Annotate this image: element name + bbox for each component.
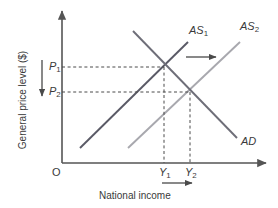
tick-label-p1: P1	[49, 61, 61, 74]
curve-as2-sub: 2	[255, 25, 259, 34]
ad-as-diagram: General price level ($) National income …	[0, 0, 278, 208]
curve-label-ad: AD	[241, 136, 256, 149]
curve-as1-base: AS	[189, 24, 204, 36]
tick-y2-sub: 2	[192, 171, 196, 180]
tick-label-y1: Y1	[159, 167, 171, 180]
curve-as2	[128, 42, 240, 148]
curve-as1-sub: 1	[204, 29, 208, 38]
tick-y1-sub: 1	[166, 171, 170, 180]
tick-p2-sub: 2	[56, 90, 60, 99]
x-axis-label: National income	[99, 191, 171, 201]
tick-p1-sub: 1	[56, 65, 60, 74]
diagram-canvas	[0, 0, 278, 208]
curve-as2-base: AS	[240, 20, 255, 32]
curve-ad-base: AD	[241, 135, 256, 147]
curve-ad	[133, 31, 237, 138]
curve-label-as1: AS1	[189, 25, 208, 38]
curve-as1	[80, 42, 188, 148]
tick-label-y2: Y2	[185, 167, 197, 180]
curve-label-as2: AS2	[240, 21, 259, 34]
origin-label: O	[52, 167, 61, 178]
y-axis-label: General price level ($)	[18, 45, 28, 155]
tick-label-p2: P2	[49, 86, 61, 99]
